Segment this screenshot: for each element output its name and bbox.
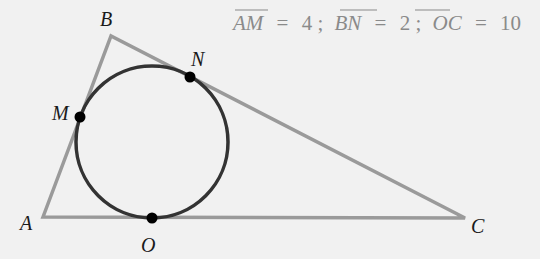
label-o: O <box>141 234 155 256</box>
label-c: C <box>471 215 485 237</box>
svg-text:AM = 4 ;: AM = 4 ; BN = 2 ; OC = 10 <box>231 11 521 35</box>
label-a: A <box>18 212 33 234</box>
segment-bn-value: 2 <box>400 11 411 35</box>
given-values: AM = 4 ; BN = 2 ; OC = 10 <box>231 10 521 35</box>
segment-oc-value: 10 <box>500 11 521 35</box>
triangle-abc <box>43 36 465 218</box>
point-o <box>147 213 158 224</box>
segment-am-name: AM <box>231 11 265 35</box>
incircle-diagram: A B C M N O AM = 4 ; BN = 2 ; OC = 10 <box>0 0 540 259</box>
label-b: B <box>100 8 112 30</box>
label-m: M <box>51 102 70 124</box>
point-m <box>75 112 86 123</box>
incircle <box>76 66 228 218</box>
segment-oc-name: OC <box>433 11 463 35</box>
label-n: N <box>190 48 206 70</box>
point-n <box>185 72 196 83</box>
segment-am-value: 4 <box>302 11 313 35</box>
segment-bn-name: BN <box>335 11 363 35</box>
